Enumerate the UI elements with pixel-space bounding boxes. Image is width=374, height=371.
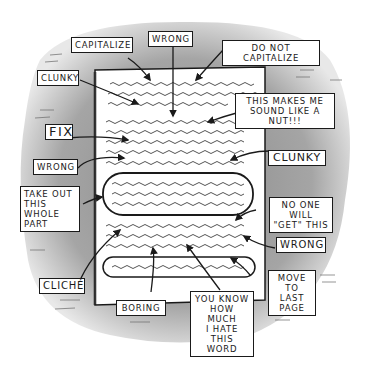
note-no-one-will-get-this: NO ONE WILL "GET" THIS	[269, 197, 333, 233]
note-take-out-this-whole-part: TAKE OUT THIS WHOLE PART	[20, 186, 80, 232]
note-capitalize: CAPITALIZE	[71, 37, 133, 53]
note-you-know-how-much-i-hate-this-word: YOU KNOW HOW MUCH I HATE THIS WORD	[190, 291, 254, 357]
note-do-not-capitalize: DO NOT CAPITALIZE	[222, 40, 320, 66]
note-wrong-right: WRONG	[276, 237, 326, 253]
note-move-to-last-page: MOVE TO LAST PAGE	[268, 270, 316, 316]
note-fix: FIX	[45, 124, 73, 140]
note-clunky-right: CLUNKY	[268, 150, 326, 166]
note-boring: BORING	[116, 300, 166, 316]
note-wrong-top: WRONG	[148, 31, 193, 47]
note-cliche: CLICHÉ	[39, 278, 85, 294]
note-this-makes-me-sound-like-a-nut: THIS MAKES ME SOUND LIKE A NUT!!!	[235, 93, 335, 129]
note-clunky-left: CLUNKY	[37, 70, 79, 86]
note-wrong-left: WRONG	[33, 159, 78, 175]
